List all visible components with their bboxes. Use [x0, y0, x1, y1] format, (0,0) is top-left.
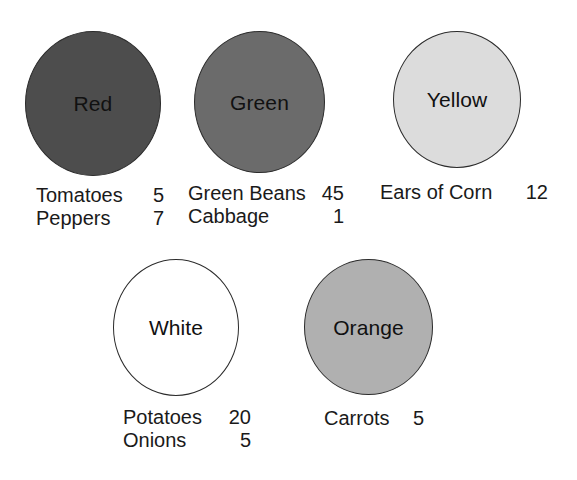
color-groups-diagram: Red Tomatoes 5 Peppers 7 Green Green Bea…: [0, 0, 577, 480]
list-item: Peppers 7: [36, 207, 164, 230]
item-name: Green Beans: [188, 182, 306, 205]
item-name: Cabbage: [188, 205, 269, 228]
list-item: Ears of Corn 12: [380, 181, 548, 204]
list-item: Carrots 5: [324, 407, 424, 430]
item-list-red: Tomatoes 5 Peppers 7: [36, 184, 164, 230]
item-list-orange: Carrots 5: [324, 407, 424, 430]
item-value: 7: [143, 207, 164, 230]
item-value: 5: [143, 184, 164, 207]
item-list-white: Potatoes 20 Onions 5: [123, 406, 251, 452]
item-value: 5: [230, 429, 251, 452]
circle-orange[interactable]: Orange: [304, 259, 433, 395]
list-item: Onions 5: [123, 429, 251, 452]
item-name: Carrots: [324, 407, 390, 430]
list-item: Tomatoes 5: [36, 184, 164, 207]
item-list-yellow: Ears of Corn 12: [380, 181, 548, 204]
item-value: 12: [520, 181, 548, 204]
item-name: Ears of Corn: [380, 181, 492, 204]
item-name: Tomatoes: [36, 184, 123, 207]
item-value: 45: [312, 182, 344, 205]
circle-red[interactable]: Red: [25, 31, 161, 176]
item-name: Potatoes: [123, 406, 202, 429]
item-value: 1: [323, 205, 344, 228]
circle-label-green: Green: [230, 92, 289, 113]
circle-label-red: Red: [74, 93, 113, 114]
item-value: 20: [219, 406, 251, 429]
circle-white[interactable]: White: [113, 259, 239, 396]
circle-label-yellow: Yellow: [427, 89, 488, 110]
list-item: Potatoes 20: [123, 406, 251, 429]
item-value: 5: [407, 407, 424, 430]
circle-green[interactable]: Green: [194, 31, 325, 173]
circle-yellow[interactable]: Yellow: [393, 31, 521, 168]
item-name: Onions: [123, 429, 186, 452]
list-item: Cabbage 1: [188, 205, 344, 228]
item-name: Peppers: [36, 207, 111, 230]
circle-label-white: White: [149, 317, 203, 338]
list-item: Green Beans 45: [188, 182, 344, 205]
circle-label-orange: Orange: [333, 317, 404, 338]
item-list-green: Green Beans 45 Cabbage 1: [188, 182, 344, 228]
